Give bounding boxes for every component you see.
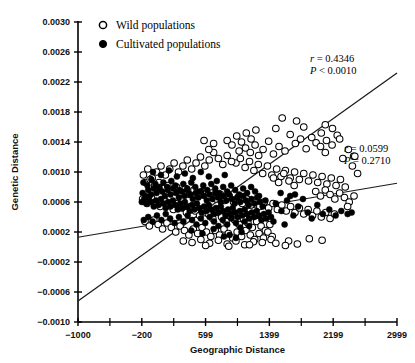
data-point bbox=[273, 125, 280, 132]
figure-scatter-genetic-vs-geographic: −0.0010−0.0006−0.00020.00020.00060.00100… bbox=[0, 0, 415, 363]
data-point bbox=[292, 192, 298, 198]
data-point bbox=[221, 234, 227, 240]
data-point bbox=[206, 146, 213, 153]
data-point bbox=[206, 174, 212, 180]
data-point bbox=[246, 223, 252, 229]
x-tick-label: 599 bbox=[198, 330, 213, 340]
data-point bbox=[182, 171, 188, 177]
data-point bbox=[167, 216, 173, 222]
y-tick-label: 0.0022 bbox=[42, 77, 70, 87]
data-point bbox=[322, 121, 329, 128]
data-point bbox=[297, 136, 304, 143]
data-point bbox=[227, 232, 233, 238]
data-point bbox=[351, 193, 358, 200]
data-point bbox=[279, 202, 286, 209]
annotation-wild-stats: r = 0.4346P < 0.0010 bbox=[309, 53, 356, 76]
data-point bbox=[305, 178, 312, 185]
annotation-r-value: r = 0.4346 bbox=[310, 53, 354, 64]
data-point bbox=[190, 175, 196, 181]
data-point bbox=[314, 179, 321, 186]
data-point bbox=[150, 219, 156, 225]
data-point bbox=[326, 207, 332, 213]
data-point bbox=[188, 166, 195, 173]
x-tick-label: 2999 bbox=[387, 330, 407, 340]
data-point bbox=[174, 174, 180, 180]
data-point bbox=[225, 243, 232, 250]
data-point bbox=[287, 131, 294, 138]
data-point bbox=[265, 138, 272, 145]
data-point bbox=[246, 202, 252, 208]
data-point bbox=[322, 149, 329, 156]
x-tick-label: −1000 bbox=[65, 330, 90, 340]
data-point bbox=[158, 163, 165, 170]
data-point bbox=[180, 163, 187, 170]
data-point bbox=[354, 170, 361, 177]
data-point bbox=[306, 235, 313, 242]
data-point bbox=[314, 208, 321, 215]
data-point bbox=[220, 217, 226, 223]
data-point bbox=[158, 172, 164, 178]
data-point bbox=[246, 241, 253, 248]
data-point bbox=[204, 198, 210, 204]
data-point bbox=[229, 216, 235, 222]
data-point bbox=[188, 228, 194, 234]
data-point bbox=[310, 172, 317, 179]
data-point bbox=[162, 193, 168, 199]
y-tick-label: 0.0010 bbox=[42, 167, 70, 177]
data-point bbox=[184, 157, 191, 164]
data-point bbox=[309, 216, 315, 222]
data-point bbox=[282, 148, 289, 155]
data-point bbox=[202, 242, 209, 249]
data-point bbox=[255, 161, 262, 168]
legend-label-wild: Wild populations bbox=[116, 19, 196, 32]
data-point bbox=[193, 222, 199, 228]
data-point bbox=[199, 231, 205, 237]
data-point bbox=[210, 140, 217, 147]
data-point bbox=[209, 196, 215, 202]
data-point bbox=[145, 214, 151, 220]
data-point bbox=[291, 182, 298, 189]
data-point bbox=[256, 193, 262, 199]
data-point bbox=[287, 203, 294, 210]
annotation-r-value: r = 0.0599 bbox=[344, 143, 388, 154]
data-point bbox=[318, 130, 325, 137]
data-point bbox=[336, 136, 343, 143]
y-tick-label: 0.0030 bbox=[42, 17, 70, 27]
data-point bbox=[214, 178, 220, 184]
data-point bbox=[219, 161, 226, 168]
data-point bbox=[204, 187, 210, 193]
data-point bbox=[291, 169, 298, 176]
data-point bbox=[282, 242, 289, 249]
data-point bbox=[305, 210, 311, 216]
data-point bbox=[282, 222, 288, 228]
data-point bbox=[248, 136, 255, 143]
data-point bbox=[211, 219, 217, 225]
data-point bbox=[224, 152, 231, 159]
data-point bbox=[164, 184, 170, 190]
data-point bbox=[300, 196, 306, 202]
data-point bbox=[349, 210, 355, 216]
data-point bbox=[232, 201, 238, 207]
data-point bbox=[190, 196, 196, 202]
y-tick-label: 0.0026 bbox=[42, 47, 70, 57]
data-point bbox=[273, 240, 280, 247]
data-point bbox=[246, 158, 253, 165]
data-point bbox=[223, 198, 229, 204]
data-point bbox=[216, 190, 222, 196]
annotation-p-value: P = 0.2710 bbox=[343, 155, 390, 166]
data-point bbox=[181, 193, 187, 199]
data-point bbox=[333, 182, 340, 189]
annotation-cultivated-stats: r = 0.0599P = 0.2710 bbox=[343, 143, 390, 166]
x-tick-label: −200 bbox=[132, 330, 152, 340]
data-point bbox=[276, 143, 283, 150]
y-tick-label: 0.0002 bbox=[42, 227, 70, 237]
data-point bbox=[176, 187, 182, 193]
data-point bbox=[278, 190, 284, 196]
data-point bbox=[171, 160, 178, 167]
data-point bbox=[259, 170, 266, 177]
data-point bbox=[142, 193, 148, 199]
data-point bbox=[228, 158, 235, 165]
data-point bbox=[215, 155, 222, 162]
data-point bbox=[215, 237, 222, 244]
data-point bbox=[290, 213, 296, 219]
